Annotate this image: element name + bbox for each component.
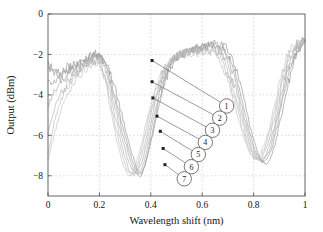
y-tick-label: 0 bbox=[38, 9, 43, 19]
x-tick-label: 1 bbox=[303, 200, 308, 210]
chart-canvas: 00.20.40.60.810−2−4−6−8 1234567 Waveleng… bbox=[0, 0, 323, 232]
y-tick-label: −6 bbox=[33, 131, 43, 141]
figure-container: 00.20.40.60.810−2−4−6−8 1234567 Waveleng… bbox=[0, 0, 323, 232]
x-axis-title: Wavelength shift (nm) bbox=[129, 215, 224, 227]
callout-marker bbox=[151, 80, 154, 83]
callout-number: 4 bbox=[203, 138, 207, 147]
callout-marker bbox=[162, 147, 165, 150]
callout-number: 6 bbox=[189, 163, 193, 172]
callout-number: 7 bbox=[182, 175, 186, 184]
callout-marker bbox=[159, 130, 162, 133]
callout-number: 2 bbox=[218, 114, 222, 123]
callout-marker bbox=[151, 96, 154, 99]
callout-number: 1 bbox=[225, 102, 229, 111]
x-tick-label: 0.2 bbox=[93, 200, 105, 210]
x-tick-label: 0 bbox=[46, 200, 51, 210]
x-tick-label: 0.6 bbox=[196, 200, 208, 210]
callout-marker bbox=[151, 59, 154, 62]
x-tick-label: 0.8 bbox=[248, 200, 260, 210]
callout-number: 5 bbox=[196, 150, 200, 159]
callout-marker bbox=[163, 163, 166, 166]
callout-marker bbox=[155, 115, 158, 118]
y-tick-label: −2 bbox=[33, 50, 43, 60]
y-tick-label: −4 bbox=[33, 90, 43, 100]
x-tick-label: 0.4 bbox=[145, 200, 157, 210]
y-axis-title: Output (dBm) bbox=[5, 75, 17, 135]
callout-number: 3 bbox=[210, 126, 214, 135]
y-tick-label: −8 bbox=[33, 171, 43, 181]
